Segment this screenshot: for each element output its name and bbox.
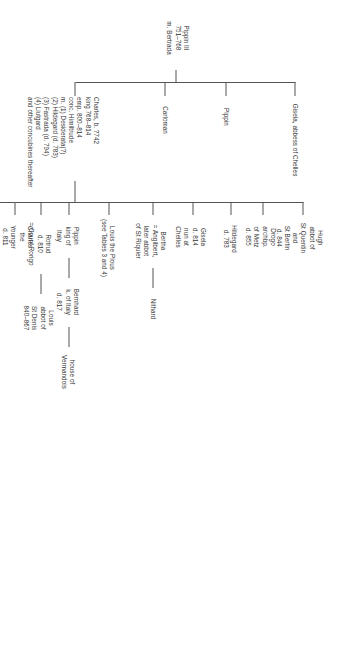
connector-root-stem	[175, 70, 176, 82]
family-tree-canvas: Pippin III 751–768 m. Bertrada Charles, …	[0, 0, 341, 668]
connector-gen3-drogo	[262, 202, 263, 215]
connector-gen2-pippin	[225, 82, 226, 96]
node-pippin-iii: Pippin III 751–768 m. Bertrada	[164, 6, 189, 70]
connector-charles-stem	[74, 181, 75, 202]
node-bernhard: Bernhard k. of Italy d. 817	[54, 279, 79, 325]
node-pippin: Pippin	[221, 97, 229, 137]
connector-gen2-carloman	[164, 82, 165, 96]
node-pippin-italy: Pippin king of Italy	[54, 216, 79, 256]
connector-bernhard-vermandois	[68, 327, 69, 347]
node-bertha: Bertha = Angilbert, later abbot of St Ri…	[133, 216, 166, 266]
node-hugh: Hugh abbot of St Quentin and St Bertin d…	[273, 216, 323, 260]
connector-gen3-rotrud	[40, 202, 41, 215]
node-drogo: Drogo archbp. of Metz d. 855	[243, 216, 276, 258]
node-nithard: Nithard	[148, 289, 156, 329]
family-tree-page: Pippin III 751–768 m. Bertrada Charles, …	[0, 0, 341, 668]
node-gisela-abbess: Gisela, abbess of Chelles	[290, 97, 298, 183]
connector-pippin-bernhard	[68, 258, 69, 278]
connector-gen3-hildegard	[230, 202, 231, 215]
connector-bertha-nithard	[152, 268, 153, 288]
connector-gen3-charles-younger	[14, 202, 15, 215]
node-louis-st-denis: Louis abbot of St Denis 840–867	[21, 295, 54, 341]
node-vermandois: house of Vermandois	[58, 348, 75, 396]
node-hildegard: Hildegard d. 783	[220, 216, 237, 262]
connector-gen3-spine-extension	[0, 202, 15, 203]
connector-rotrud-louis	[40, 274, 41, 294]
node-gisela-chelles: Gisela d. 814 nun at Chelles	[173, 216, 206, 258]
connector-gen2-gisela-abbess	[294, 82, 295, 96]
node-louis-pious: Louis the Pious (see Tables 3 and 4)	[98, 210, 115, 286]
connector-gen3-spine	[15, 202, 303, 203]
node-charles: Charles, b. ?742 king 768–814 emp. 800–8…	[24, 97, 99, 217]
node-carloman: Carloman	[160, 97, 168, 143]
connector-gen3-pippin-italy	[68, 202, 69, 215]
node-charles-younger: Charles the Younger d. 811	[0, 216, 33, 258]
connector-gen3-gisela-chelles	[192, 202, 193, 215]
connector-gen2-charles	[74, 82, 75, 96]
connector-gen3-hugh	[302, 202, 303, 215]
connector-gen2-spine	[75, 82, 295, 83]
connector-gen3-bertha	[152, 202, 153, 215]
